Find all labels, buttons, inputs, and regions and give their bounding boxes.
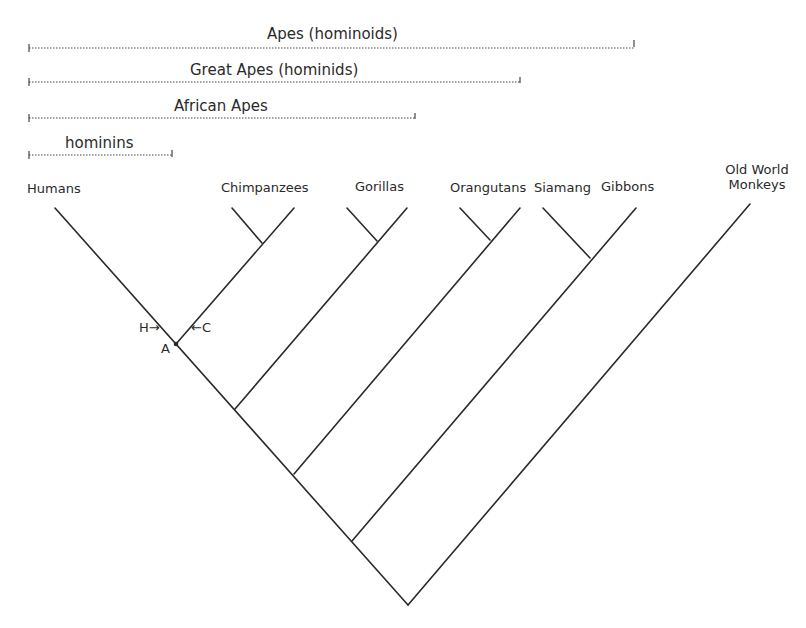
cladogram bbox=[0, 0, 806, 628]
node-a-dot bbox=[174, 342, 179, 347]
branch-to-orangutan-clade bbox=[294, 208, 520, 474]
branch-to-gibbon-clade bbox=[352, 208, 636, 541]
branch-siamang bbox=[543, 208, 590, 258]
branch-to-chimp-clade bbox=[176, 208, 294, 344]
tree-branches bbox=[55, 204, 750, 605]
branch-to-gorilla-clade bbox=[235, 208, 407, 409]
branch-chimp-left bbox=[232, 208, 262, 243]
branch-orangutan-left bbox=[460, 208, 490, 240]
group-range-bars bbox=[29, 40, 634, 159]
branch-gorilla-left bbox=[347, 208, 377, 241]
branch-old-world-monkeys bbox=[408, 204, 750, 605]
